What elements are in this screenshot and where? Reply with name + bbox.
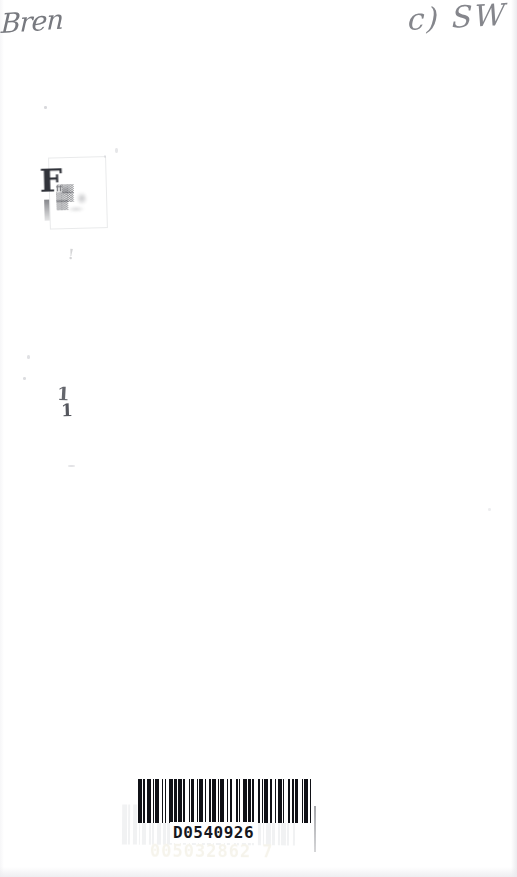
scan-speck bbox=[115, 148, 118, 153]
scan-speck bbox=[68, 465, 75, 467]
barcode-ghost-bar bbox=[122, 805, 127, 845]
page-bottom-edge-shadow bbox=[0, 867, 517, 877]
handwritten-annotation-top-right: c) SW bbox=[408, 0, 508, 37]
scan-speck bbox=[488, 508, 491, 511]
tick-mark-lower: 1 bbox=[61, 402, 73, 419]
handwritten-annotation-top-left: Bren bbox=[0, 4, 63, 39]
scan-speck bbox=[23, 377, 26, 380]
page-left-edge-shadow bbox=[0, 0, 4, 877]
stamp-descender bbox=[44, 200, 50, 221]
page-right-edge-shadow bbox=[511, 0, 517, 877]
ink-stamp: F ﬀ▒▒ ▒▒▒ ▒▒ bbox=[39, 165, 102, 223]
barcode-label: D0540926 bbox=[138, 779, 314, 847]
scan-speck bbox=[44, 106, 47, 109]
scan-artifact-line bbox=[314, 806, 316, 852]
barcode-ghost-bar bbox=[127, 805, 129, 845]
barcode-number: D0540926 bbox=[170, 822, 257, 843]
barcode-ghost-bar bbox=[133, 805, 138, 845]
stamp-text-line-3: ▒▒ bbox=[56, 200, 100, 211]
barcode-bars bbox=[138, 779, 314, 823]
faint-stray-mark: ! bbox=[67, 247, 75, 262]
scanned-page: Bren c) SW F ﬀ▒▒ ▒▒▒ ▒▒ ! 1 1 D0540926 0… bbox=[0, 0, 517, 877]
barcode-ghost-bar bbox=[128, 805, 130, 845]
barcode-ghost-bar bbox=[130, 805, 133, 845]
stamp-text-block: ﬀ▒▒ ▒▒▒ ▒▒ bbox=[56, 183, 101, 214]
scan-speck bbox=[27, 355, 30, 359]
